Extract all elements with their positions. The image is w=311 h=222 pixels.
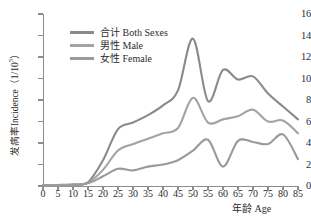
series-line xyxy=(43,134,298,185)
legend: 合计 Both Sexes男性 Male女性 Female xyxy=(70,26,168,65)
legend-swatch xyxy=(70,57,94,59)
legend-item: 女性 Female xyxy=(70,52,168,65)
legend-swatch xyxy=(70,44,94,46)
legend-label: 男性 Male xyxy=(100,40,143,51)
legend-label: 合计 Both Sexes xyxy=(100,27,168,38)
legend-item: 男性 Male xyxy=(70,39,168,52)
incidence-by-age-chart: 发病率Incidence（1/105） 年龄 Age 0246810121416… xyxy=(0,0,311,222)
series-line xyxy=(43,98,298,185)
legend-label: 女性 Female xyxy=(100,53,152,64)
legend-swatch xyxy=(70,31,94,33)
legend-item: 合计 Both Sexes xyxy=(70,26,168,39)
